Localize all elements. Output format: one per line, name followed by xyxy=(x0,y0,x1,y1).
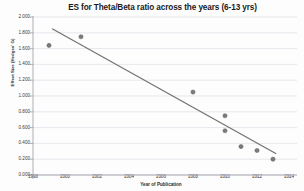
chart-container: ES for Theta/Beta ratio across the years… xyxy=(0,0,304,191)
data-point xyxy=(79,35,83,39)
data-point xyxy=(223,129,227,133)
data-point xyxy=(271,157,275,161)
data-point xyxy=(239,144,243,148)
data-point xyxy=(255,148,259,152)
trendline xyxy=(52,29,276,154)
data-point xyxy=(47,43,51,47)
data-point xyxy=(191,90,195,94)
plot-area xyxy=(0,0,304,191)
data-point xyxy=(223,114,227,118)
